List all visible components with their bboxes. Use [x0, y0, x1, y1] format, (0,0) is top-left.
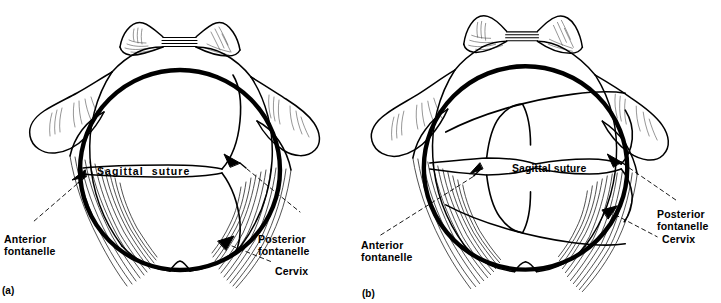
pelvic-outlet-contour	[432, 70, 616, 246]
label-anterior-fontanelle: Anterior fontanelle	[4, 234, 56, 257]
label-sagittal-suture: Sagittal suture	[512, 163, 586, 175]
panel-b-illustration	[360, 0, 720, 303]
caption-panel-b: (b)	[362, 288, 375, 299]
label-cervix: Cervix	[275, 266, 308, 278]
panel-a-illustration	[0, 0, 360, 303]
label-posterior-fontanelle: Posterior fontanelle	[657, 209, 709, 232]
symphysis-pubis	[506, 32, 539, 41]
pelvic-outlet-contour	[90, 72, 273, 246]
posterior-fontanelle-leader	[629, 168, 677, 201]
anterior-fontanelle-leader	[33, 184, 77, 222]
ischial-spine-right	[251, 77, 319, 170]
panel-a: Sagittal suture Anterior fontanelle Post…	[0, 0, 360, 303]
label-sagittal-suture: Sagittal suture	[97, 166, 190, 178]
pubic-ramus-left-hatching	[125, 28, 157, 52]
figure-fetal-head-presentation: Sagittal suture Anterior fontanelle Post…	[0, 0, 721, 303]
symphysis-pubis	[162, 38, 197, 47]
caption-panel-a: (a)	[2, 285, 14, 296]
label-anterior-fontanelle: Anterior fontanelle	[361, 240, 413, 263]
label-cervix: Cervix	[662, 234, 695, 246]
label-posterior-fontanelle: Posterior fontanelle	[258, 234, 310, 257]
pubic-ramus-left	[455, 16, 507, 70]
panel-b: Sagittal suture Anterior fontanelle Post…	[360, 0, 720, 303]
ischial-spine-left	[371, 70, 454, 158]
cervix-leader	[615, 215, 657, 237]
pubic-ramus-right	[196, 23, 251, 77]
posterior-fontanelle-arrow	[224, 154, 246, 168]
